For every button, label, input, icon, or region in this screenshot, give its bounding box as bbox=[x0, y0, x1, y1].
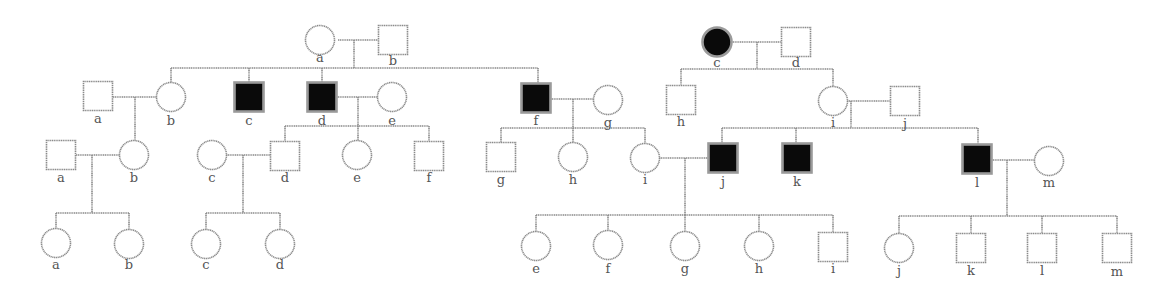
individual-label: h bbox=[569, 172, 578, 187]
female-circle-icon bbox=[522, 232, 551, 261]
individual-label: b bbox=[125, 257, 133, 272]
individual-label: d bbox=[281, 170, 289, 185]
individual-label: d bbox=[318, 113, 326, 128]
individual-label: e bbox=[532, 261, 540, 276]
individual-label: k bbox=[967, 263, 975, 278]
affected-male-square-icon bbox=[308, 83, 337, 112]
individual-label: h bbox=[755, 261, 764, 276]
individual-label: h bbox=[677, 114, 686, 129]
individual-label: j bbox=[901, 116, 907, 131]
individual-label: e bbox=[388, 113, 396, 128]
individual-label: f bbox=[606, 261, 612, 276]
male-square-icon bbox=[415, 142, 444, 171]
individual-label: j bbox=[719, 174, 725, 189]
male-square-icon bbox=[667, 86, 696, 115]
individual-label: a bbox=[316, 50, 324, 65]
male-square-icon bbox=[782, 28, 811, 57]
pedigree-chart: ababcdefgabcdefghijklmabcdefghicdhijjklm bbox=[0, 0, 1170, 290]
male-square-icon bbox=[84, 82, 113, 111]
individual-label: i bbox=[831, 261, 835, 276]
individual-label: g bbox=[681, 261, 689, 276]
female-circle-icon bbox=[157, 83, 186, 112]
male-square-icon bbox=[47, 141, 76, 170]
affected-male-square-icon bbox=[709, 144, 738, 173]
individual-label: d bbox=[792, 55, 800, 70]
female-circle-icon bbox=[671, 232, 700, 261]
male-square-icon bbox=[487, 143, 516, 172]
individual-label: i bbox=[643, 172, 647, 187]
individual-label: b bbox=[130, 170, 138, 185]
individual-label: l bbox=[1040, 263, 1044, 278]
individual-label: c bbox=[713, 55, 720, 70]
female-circle-icon bbox=[1035, 147, 1064, 176]
individual-label: a bbox=[57, 170, 65, 185]
individual-label: a bbox=[94, 111, 102, 126]
affected-male-square-icon bbox=[235, 83, 264, 112]
affected-male-square-icon bbox=[963, 145, 992, 174]
individual-label: l bbox=[975, 175, 979, 190]
male-square-icon bbox=[379, 26, 408, 55]
female-circle-icon bbox=[343, 141, 372, 170]
relationship-lines bbox=[56, 40, 1117, 234]
individual-label: c bbox=[208, 170, 215, 185]
individual-label: e bbox=[353, 170, 361, 185]
individual-label: k bbox=[793, 174, 801, 189]
individual-label: g bbox=[497, 172, 505, 187]
individual-label: i bbox=[831, 115, 835, 130]
pedigree-diagram: ababcdefgabcdefghijklmabcdefghicdhijjklm bbox=[0, 0, 1170, 290]
male-square-icon bbox=[1103, 234, 1132, 263]
female-circle-icon bbox=[120, 141, 149, 170]
female-circle-icon bbox=[192, 230, 221, 259]
female-circle-icon bbox=[631, 144, 660, 173]
individual-label: c bbox=[202, 257, 209, 272]
individual-label: a bbox=[52, 257, 60, 272]
female-circle-icon bbox=[559, 143, 588, 172]
individual-label: d bbox=[276, 257, 284, 272]
individuals bbox=[42, 26, 1132, 263]
individual-label: f bbox=[534, 113, 540, 128]
individual-label: j bbox=[895, 263, 901, 278]
female-circle-icon bbox=[594, 231, 623, 260]
male-square-icon bbox=[891, 87, 920, 116]
female-circle-icon bbox=[819, 87, 848, 116]
female-circle-icon bbox=[745, 232, 774, 261]
individual-label: m bbox=[1043, 175, 1055, 190]
affected-male-square-icon bbox=[783, 144, 812, 173]
individual-label: b bbox=[389, 53, 397, 68]
female-circle-icon bbox=[885, 234, 914, 263]
female-circle-icon bbox=[594, 86, 623, 115]
female-circle-icon bbox=[115, 230, 144, 259]
individual-label: b bbox=[167, 113, 175, 128]
male-square-icon bbox=[1028, 234, 1057, 263]
individual-label: f bbox=[427, 170, 433, 185]
female-circle-icon bbox=[378, 83, 407, 112]
male-square-icon bbox=[271, 142, 300, 171]
affected-male-square-icon bbox=[522, 84, 551, 113]
female-circle-icon bbox=[42, 229, 71, 258]
female-circle-icon bbox=[198, 141, 227, 170]
male-square-icon bbox=[819, 233, 848, 262]
individual-label: g bbox=[604, 115, 612, 130]
individual-label: m bbox=[1111, 264, 1123, 279]
affected-female-circle-icon bbox=[703, 28, 732, 57]
male-square-icon bbox=[957, 234, 986, 263]
individual-label: c bbox=[245, 113, 252, 128]
female-circle-icon bbox=[266, 230, 295, 259]
